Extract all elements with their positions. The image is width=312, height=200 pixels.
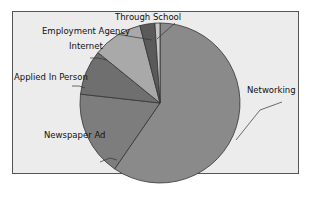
pie-chart: Networking Newspaper Ad Applied In Perso… (0, 0, 312, 200)
label-networking: Networking (247, 85, 296, 95)
label-newspaper-ad: Newspaper Ad (44, 130, 105, 140)
label-internet: Internet (69, 41, 103, 51)
pie-slices (80, 23, 240, 183)
label-applied-in-person: Applied In Person (14, 72, 88, 82)
label-through-school: Through School (114, 12, 181, 22)
label-employment-agency: Employment Agency (42, 26, 130, 36)
